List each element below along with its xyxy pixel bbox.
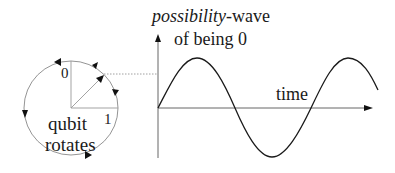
state-vector [71, 78, 101, 108]
qubit-circle-group: 0 1 qubit rotates [22, 58, 119, 159]
qubit-wave-diagram: 0 1 qubit rotates possibility-wave of be… [0, 0, 395, 173]
wave-axes [155, 34, 373, 158]
label-zero: 0 [61, 65, 69, 81]
rotation-arrow-icon [92, 62, 98, 69]
wave-title: possibility-wave [150, 6, 270, 26]
rotation-arrow-icon [54, 58, 61, 66]
qubit-caption-line2: rotates [45, 134, 96, 155]
y-axis-arrowhead-icon [155, 34, 161, 42]
x-axis-label: time [276, 84, 308, 104]
label-one: 1 [104, 111, 112, 127]
possibility-wave [158, 58, 378, 157]
rotation-arrow-icon [22, 110, 28, 118]
wave-title-rest: -wave [226, 6, 270, 26]
qubit-caption-line1: qubit [48, 113, 88, 134]
rotation-arrow-icon [112, 89, 119, 96]
wave-subtitle: of being 0 [174, 29, 247, 49]
x-axis-arrowhead-icon [364, 105, 373, 111]
wave-title-italic: possibility [150, 6, 226, 26]
